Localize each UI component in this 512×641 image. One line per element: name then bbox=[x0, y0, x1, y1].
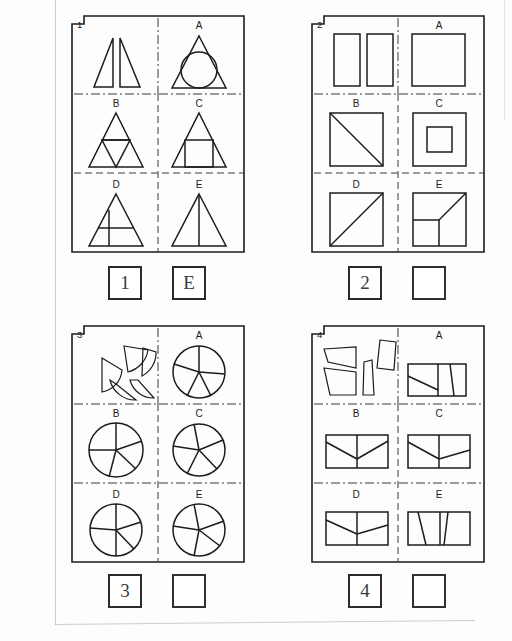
option-label-4-A: A bbox=[436, 330, 443, 341]
page-margin-line-right bbox=[504, 0, 505, 120]
option-label-1-C: C bbox=[195, 98, 202, 109]
option-label-3-E: E bbox=[196, 489, 203, 500]
option-label-3-A: A bbox=[196, 330, 203, 341]
answer-value-box-4[interactable] bbox=[412, 574, 446, 608]
puzzle-panel-4[interactable]: 4 A B C bbox=[308, 322, 488, 567]
answer-number-box-2: 2 bbox=[348, 266, 382, 300]
puzzle-panel-3[interactable]: 3 A B bbox=[68, 322, 248, 567]
answer-row-1[interactable]: 1 E bbox=[108, 266, 206, 300]
option-label-2-E: E bbox=[436, 179, 443, 190]
page-margin-line-left bbox=[55, 0, 56, 625]
answer-value-box-3[interactable] bbox=[172, 574, 206, 608]
option-label-1-D: D bbox=[112, 179, 119, 190]
option-label-3-D: D bbox=[112, 489, 119, 500]
answer-number-box-4: 4 bbox=[348, 574, 382, 608]
puzzle-panel-2[interactable]: 2 A B C D E bbox=[308, 12, 488, 257]
option-label-2-C: C bbox=[435, 98, 442, 109]
option-label-3-C: C bbox=[195, 408, 202, 419]
panel-number-1: 1 bbox=[77, 19, 82, 30]
option-label-4-C: C bbox=[435, 408, 442, 419]
option-label-2-B: B bbox=[353, 98, 360, 109]
option-label-1-B: B bbox=[113, 98, 120, 109]
panel-number-2: 2 bbox=[317, 19, 322, 30]
puzzle-panel-1[interactable]: 1 A B C D bbox=[68, 12, 248, 257]
answer-row-4[interactable]: 4 bbox=[348, 574, 446, 608]
answer-number-box-1: 1 bbox=[108, 266, 142, 300]
option-label-4-D: D bbox=[352, 489, 359, 500]
page-margin-line-bottom bbox=[55, 620, 475, 625]
answer-value-box-2[interactable] bbox=[412, 266, 446, 300]
option-label-4-B: B bbox=[353, 408, 360, 419]
answer-value-box-1[interactable]: E bbox=[172, 266, 206, 300]
option-label-1-E: E bbox=[196, 179, 203, 190]
answer-number-box-3: 3 bbox=[108, 574, 142, 608]
panel-number-3: 3 bbox=[77, 329, 82, 340]
option-label-1-A: A bbox=[196, 20, 203, 31]
option-label-2-A: A bbox=[436, 20, 443, 31]
option-label-3-B: B bbox=[113, 408, 120, 419]
answer-row-2[interactable]: 2 bbox=[348, 266, 446, 300]
worksheet-page: 1 A B C D bbox=[0, 0, 512, 641]
option-label-2-D: D bbox=[352, 179, 359, 190]
answer-row-3[interactable]: 3 bbox=[108, 574, 206, 608]
panel-number-4: 4 bbox=[317, 329, 322, 340]
option-label-4-E: E bbox=[436, 489, 443, 500]
